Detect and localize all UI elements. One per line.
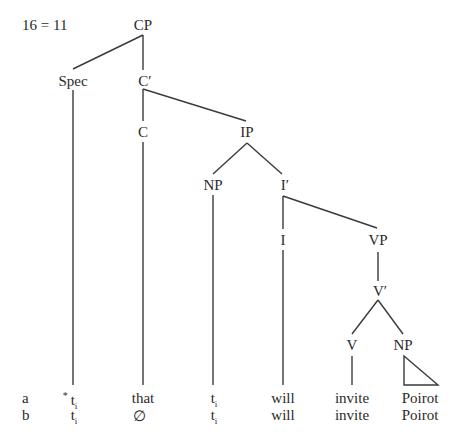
row-a-c-cell: that <box>132 390 155 407</box>
node-spec: Spec <box>58 74 87 89</box>
row-b-spec-cell: ti <box>71 407 78 426</box>
row-b-np-object-cell: Poirot <box>402 407 439 424</box>
node-ip: IP <box>240 125 253 140</box>
row-key-a: a <box>22 390 29 407</box>
row-a-i-cell: will <box>271 390 294 407</box>
node-c: C <box>138 125 148 140</box>
node-v-bar: V′ <box>373 284 387 299</box>
tree-branches <box>0 0 460 446</box>
node-i: I <box>281 233 286 248</box>
figure-label: 16 = 11 <box>22 17 67 34</box>
row-b-np-cell: ti <box>211 407 218 426</box>
node-np-subject: NP <box>203 178 222 193</box>
row-a-np-object-cell: Poirot <box>402 390 439 407</box>
node-v: V <box>347 338 358 353</box>
node-np-object: NP <box>393 338 412 353</box>
row-key-b: b <box>22 407 30 424</box>
ungrammatical-star: * <box>63 390 68 401</box>
node-cp: CP <box>134 18 152 33</box>
row-b-v-cell: invite <box>335 407 369 424</box>
row-a-v-cell: invite <box>335 390 369 407</box>
node-vp: VP <box>368 233 387 248</box>
node-i-bar: I′ <box>281 178 289 193</box>
row-b-c-cell: ∅ <box>133 407 146 425</box>
row-b-i-cell: will <box>271 407 294 424</box>
node-c-bar: C′ <box>138 74 151 89</box>
